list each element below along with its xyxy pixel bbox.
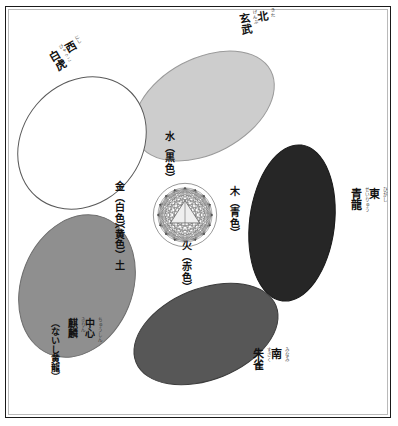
direction-north-ruby: きた: [269, 7, 275, 18]
element-label-fire: 火（赤色）: [180, 240, 190, 293]
geometric-mandala-icon: [152, 182, 218, 248]
label-south-suzaku: 南 みなみ 朱雀 すざく: [247, 348, 283, 370]
element-label-earth: （黄色）土: [113, 218, 123, 271]
beast-seiryu: 青龍: [347, 188, 363, 210]
beast-suzaku: 朱雀: [249, 348, 265, 370]
beast-kirin-ruby: きりん: [79, 317, 84, 332]
beast-genbu-ruby: げんぶ: [251, 10, 258, 25]
beast-seiryu-ruby: せいりゅう: [363, 187, 368, 212]
diagram-canvas: 北 きた 玄武 げんぶ 西 にし 白虎 びゃっこ 東 ひがし 青龍 せいりゅう: [0, 0, 398, 426]
label-north-genbu: 北 きた 玄武 げんぶ: [233, 9, 272, 36]
element-label-wood: 木（青色）: [228, 186, 238, 239]
label-east-seiryu: 東 ひがし 青龍 せいりゅう: [345, 188, 381, 210]
direction-center-ruby: ちゅうしん: [96, 317, 101, 342]
direction-south-ruby: みなみ: [283, 347, 288, 362]
label-center-kirin: 中心 ちゅうしん 麒麟 きりん （ないし黄龍）: [47, 318, 96, 381]
beast-kirin: 麒麟: [64, 318, 79, 338]
beast-suzaku-ruby: すざく: [265, 347, 270, 362]
beast-kirin-alt: （ないし黄龍）: [49, 318, 62, 381]
direction-east-ruby: ひがし: [381, 187, 386, 202]
label-west-byakko: 西 にし 白虎 びゃっこ: [42, 38, 84, 75]
element-label-water: 水（黒色）: [163, 131, 173, 184]
ellipse-wood-east: [240, 139, 345, 306]
